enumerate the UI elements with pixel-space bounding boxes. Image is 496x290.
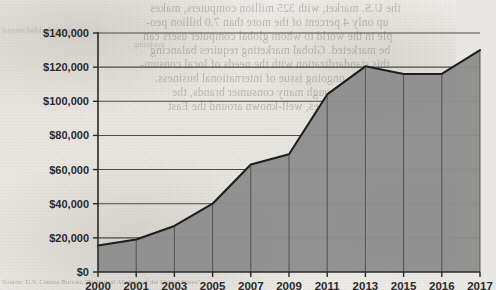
x-axis-ticks: 2000200120032005200720092011201320152016…	[85, 272, 493, 290]
y-axis-ticks: $0$20,000$40,000$60,000$80,000$100,000$1…	[43, 27, 98, 278]
y-tick-label: $20,000	[49, 232, 89, 244]
x-tick-label: 2005	[200, 280, 226, 290]
x-tick-label: 2000	[85, 280, 111, 290]
x-tick-label: 2016	[429, 280, 455, 290]
x-tick-label: 2007	[238, 280, 264, 290]
x-tick-label: 2003	[162, 280, 188, 290]
y-tick-label: $140,000	[43, 27, 89, 39]
y-tick-label: $80,000	[49, 129, 89, 141]
y-tick-label: $40,000	[49, 198, 89, 210]
x-tick-label: 2017	[467, 280, 493, 290]
x-tick-label: 2001	[123, 280, 149, 290]
x-tick-label: 2015	[391, 280, 417, 290]
y-tick-label: $100,000	[43, 95, 89, 107]
x-tick-label: 2009	[276, 280, 302, 290]
area-chart: $0$20,000$40,000$60,000$80,000$100,000$1…	[40, 16, 416, 274]
y-tick-label: $0	[77, 266, 89, 278]
y-tick-label: $120,000	[43, 61, 89, 73]
x-tick-label: 2011	[315, 280, 341, 290]
y-tick-label: $60,000	[49, 164, 89, 176]
chart-canvas: $0$20,000$40,000$60,000$80,000$100,000$1…	[40, 16, 496, 290]
x-tick-label: 2013	[353, 280, 379, 290]
